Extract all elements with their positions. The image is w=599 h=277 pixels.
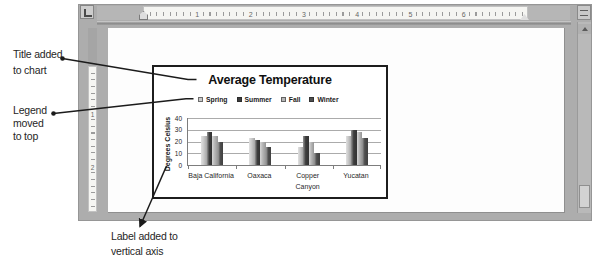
legend-label: Spring [206,96,228,103]
ruler-ticks [144,12,527,16]
legend-swatch-icon [309,97,314,102]
tab-selector-button[interactable] [80,5,94,19]
ruler-number: 1 [193,10,201,19]
left-tab-icon [84,9,92,17]
legend-item-spring: Spring [198,96,228,103]
legend-item-fall: Fall [281,96,301,103]
legend-swatch-icon [198,97,203,102]
ruler-number: 2 [89,164,96,172]
callout-line: moved [13,117,47,130]
x-axis-tick [188,165,189,169]
horizontal-ruler-band: 123456 [143,6,528,20]
y-tick-label: 10 [154,150,182,157]
callout-title-added: Title added to chart [13,47,62,78]
ruler-ticks [91,67,95,211]
chart-object[interactable]: Average Temperature SpringSummerFallWint… [152,65,388,199]
ruler-number: 3 [300,10,308,19]
category-label: Baja California [187,171,235,182]
ruler-groove [97,21,571,25]
view-ruler-button[interactable] [577,5,591,20]
bar-winter-yucatan [362,138,368,165]
gridline [188,118,381,119]
scrollbar-thumb[interactable] [579,185,590,208]
legend-label: Winter [317,96,338,103]
vertical-ruler[interactable]: 12 [88,66,97,212]
chart-legend: SpringSummerFallWinter [198,94,339,104]
x-axis-tick [380,165,381,169]
plot-area [187,118,381,166]
y-tick-label: 40 [154,115,182,122]
callout-legend-moved: Legend moved to top [13,104,47,143]
legend-item-summer: Summer [237,96,272,103]
callout-line: Title added [13,47,62,63]
legend-item-winter: Winter [309,96,338,103]
ruler-number: 4 [353,10,361,19]
x-axis-tick [285,165,286,169]
vertical-ruler-margin [88,28,97,66]
bar-winter-oaxaca [266,147,272,165]
y-tick-label: 20 [154,138,182,145]
ruler-number: 2 [247,10,255,19]
x-axis-tick [333,165,334,169]
legend-label: Summer [245,96,272,103]
ruler-number: 5 [407,10,415,19]
bar-winter-copper-canyon [314,153,320,165]
vertical-scrollbar[interactable] [577,22,591,213]
callout-line: to chart [13,63,62,79]
callout-axis-label: Label added to vertical axis [111,229,178,259]
ruler-number: 1 [89,111,96,119]
callout-line: to top [13,130,47,143]
callout-line: vertical axis [111,244,178,259]
y-tick-label: 30 [154,126,182,133]
bar-winter-baja-california [218,142,224,166]
x-axis-tick [236,165,237,169]
horizontal-ruler[interactable]: 123456 [97,6,570,20]
callout-line: Label added to [111,229,178,244]
legend-swatch-icon [281,97,286,102]
ruler-number: 6 [460,10,468,19]
figure-canvas: 123456 12 Average Temperature SpringSumm… [0,0,599,277]
legend-label: Fall [289,96,301,103]
category-label: Yucatan [332,171,380,182]
view-ruler-icon [580,10,588,16]
legend-swatch-icon [237,97,242,102]
chart-title: Average Temperature [154,73,386,87]
category-label: Oaxaca [235,171,283,182]
scroll-up-button[interactable] [578,24,591,34]
callout-dot-legend [51,111,56,116]
callout-line: Legend [13,104,47,117]
y-tick-label: 0 [154,162,182,169]
category-label: Copper Canyon [284,171,332,192]
